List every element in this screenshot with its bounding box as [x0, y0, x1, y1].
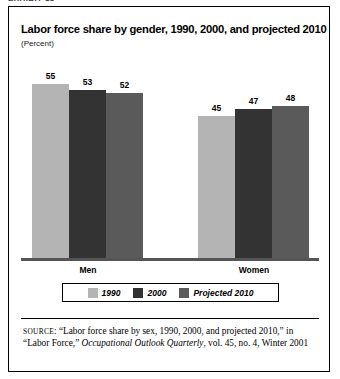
chart-legend: 1990 2000 Projected 2010 — [62, 283, 279, 302]
bar-group-men: 55 53 52 — [32, 55, 144, 259]
x-axis-baseline — [21, 258, 319, 261]
source-citation: SOURCE: “Labor force share by sex, 1990,… — [23, 326, 319, 349]
bar-value-label: 55 — [32, 71, 69, 81]
bar-men-projected-2010[interactable]: 52 — [106, 93, 143, 259]
legend-label: 2000 — [147, 288, 166, 298]
bar-women-1990[interactable]: 45 — [198, 116, 235, 259]
bar-value-label: 53 — [69, 77, 106, 87]
bar-group-women: 45 47 48 — [198, 55, 310, 259]
bar-value-label: 48 — [272, 93, 309, 103]
legend-swatch-icon — [88, 288, 98, 298]
chart-plot-area: 55 53 52 45 47 48 — [21, 55, 319, 259]
category-label-men: Men — [32, 265, 144, 275]
source-line-2-post: , vol. 45, no. 4, — [203, 338, 259, 348]
legend-item-1990[interactable]: 1990 — [88, 288, 121, 298]
source-publication-title: Occupational Outlook Quarterly — [82, 338, 204, 348]
legend-item-2000[interactable]: 2000 — [133, 288, 166, 298]
legend-swatch-icon — [179, 288, 189, 298]
source-line-1: : “Labor force share by sex, 1990, 2000,… — [54, 326, 284, 336]
cropped-header-text: EXHIBIT 13 — [8, 0, 128, 3]
page-title: Labor force share by gender, 1990, 2000,… — [21, 23, 321, 36]
legend-item-projected-2010[interactable]: Projected 2010 — [179, 288, 253, 298]
bar-value-label: 52 — [106, 80, 143, 90]
bar-men-1990[interactable]: 55 — [32, 84, 69, 259]
bar-value-label: 47 — [235, 96, 272, 106]
category-label-women: Women — [198, 265, 310, 275]
source-line-3: Winter 2001 — [262, 338, 308, 348]
legend-label: Projected 2010 — [193, 288, 253, 298]
legend-swatch-icon — [133, 288, 143, 298]
legend-label: 1990 — [102, 288, 121, 298]
bar-women-projected-2010[interactable]: 48 — [272, 106, 309, 259]
chart-units-label: (Percent) — [21, 39, 54, 49]
bar-women-2000[interactable]: 47 — [235, 109, 272, 259]
figure-frame: Labor force share by gender, 1990, 2000,… — [8, 6, 330, 372]
source-divider — [21, 318, 319, 319]
source-prefix: SOURCE — [23, 327, 54, 336]
bar-men-2000[interactable]: 53 — [69, 90, 106, 259]
bar-value-label: 45 — [198, 103, 235, 113]
